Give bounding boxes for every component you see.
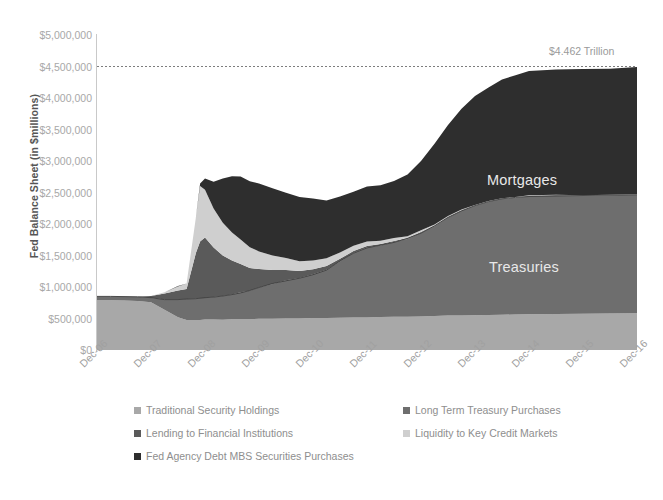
x-tick-dec-07: Dec-07 [131, 337, 163, 369]
x-tick-dec-11: Dec-11 [347, 338, 379, 370]
x-tick-dec-06: Dec-06 [77, 337, 109, 369]
fed-balance-sheet-chart: Fed Balance Sheet (in $millions) $5,000,… [0, 0, 663, 500]
chart-legend: Traditional Security Holdings Long Term … [120, 404, 640, 474]
legend-swatch-icon [403, 407, 410, 414]
x-tick-dec-09: Dec-09 [239, 337, 271, 369]
legend-item-lending-to-financial-institutions[interactable]: Lending to Financial Institutions [134, 427, 293, 439]
legend-swatch-icon [134, 430, 141, 437]
legend-swatch-icon [134, 407, 141, 414]
legend-label: Fed Agency Debt MBS Securities Purchases [146, 450, 354, 462]
x-tick-dec-15: Dec-15 [563, 337, 595, 369]
legend-item-fed-agency-debt-mbs-securities-purchases[interactable]: Fed Agency Debt MBS Securities Purchases [134, 450, 354, 462]
legend-label: Liquidity to Key Credit Markets [415, 427, 557, 439]
x-tick-dec-12: Dec-12 [401, 337, 433, 369]
legend-label: Long Term Treasury Purchases [415, 404, 561, 416]
x-tick-dec-10: Dec-10 [293, 337, 325, 369]
x-tick-dec-16: Dec-16 [617, 337, 649, 369]
x-tick-dec-08: Dec-08 [185, 337, 217, 369]
legend-item-long-term-treasury-purchases[interactable]: Long Term Treasury Purchases [403, 404, 561, 416]
legend-swatch-icon [134, 453, 141, 460]
legend-label: Traditional Security Holdings [146, 404, 279, 416]
legend-swatch-icon [403, 430, 410, 437]
legend-item-traditional-security-holdings[interactable]: Traditional Security Holdings [134, 404, 279, 416]
legend-item-liquidity-to-key-credit-markets[interactable]: Liquidity to Key Credit Markets [403, 427, 557, 439]
x-tick-dec-14: Dec-14 [509, 337, 541, 369]
x-tick-dec-13: Dec-13 [455, 337, 487, 369]
legend-label: Lending to Financial Institutions [146, 427, 293, 439]
